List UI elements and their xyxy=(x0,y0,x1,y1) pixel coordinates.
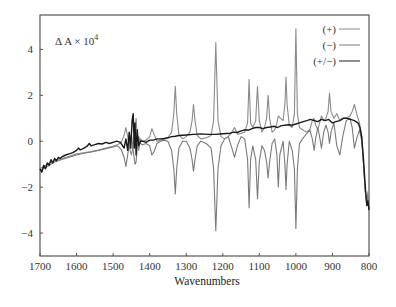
legend-label: (−) xyxy=(322,39,336,52)
y-tick-label: −4 xyxy=(21,227,33,239)
legend-label: (+) xyxy=(322,23,336,36)
x-tick-label: 900 xyxy=(324,260,341,272)
x-tick-label: 1500 xyxy=(102,260,125,272)
x-tick-label: 1600 xyxy=(66,260,89,272)
x-tick-label: 1200 xyxy=(212,260,235,272)
y-annotation: Δ A × 104 xyxy=(55,33,98,47)
y-tick-label: 4 xyxy=(28,43,34,55)
x-tick-label: 1000 xyxy=(285,260,308,272)
x-tick-label: 800 xyxy=(361,260,378,272)
x-tick-label: 1100 xyxy=(249,260,271,272)
y-tick-label: 0 xyxy=(28,135,34,147)
legend-label: (+/−) xyxy=(313,55,336,68)
x-tick-label: 1700 xyxy=(29,260,52,272)
x-tick-label: 1400 xyxy=(139,260,162,272)
y-tick-label: 2 xyxy=(28,89,34,101)
y-tick-label: −2 xyxy=(21,181,33,193)
annotation-sup: 4 xyxy=(94,33,98,42)
spectrum-chart: 17001600150014001300120011001000900800 4… xyxy=(0,0,396,307)
x-tick-label: 1300 xyxy=(175,260,198,272)
x-axis-title: Wavenumbers xyxy=(174,275,240,287)
annotation-text: Δ A × 10 xyxy=(55,35,95,47)
